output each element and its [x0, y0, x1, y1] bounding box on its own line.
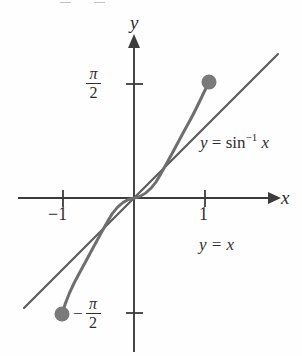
reference-line-y-equals-x [24, 54, 278, 308]
neg-pi-over-two-numerator: π [87, 296, 99, 313]
curve-equation-label: y = sin−1 x [200, 134, 269, 151]
x-tick-label-pos-one: 1 [199, 205, 208, 223]
neg-pi-over-two-sign: − [73, 304, 83, 324]
neg-pi-over-two-denominator: 2 [87, 314, 99, 331]
pi-over-two-denominator: 2 [88, 84, 100, 101]
curve-equation-exponent: −1 [245, 131, 257, 143]
curve-equation-equals: = [212, 133, 222, 152]
neg-pi-over-two-fraction: π 2 [86, 296, 101, 332]
curve-equation-argument: x [261, 133, 269, 152]
endpoint-dot-upper-right [202, 75, 217, 90]
pi-over-two-fraction: π 2 [86, 66, 101, 102]
plot-canvas [0, 0, 302, 356]
curve-equation-lead: y [200, 133, 208, 152]
pi-over-two-numerator: π [87, 66, 99, 83]
y-axis-arrowhead [128, 34, 140, 48]
reference-line-label: y = x [199, 236, 234, 253]
curve-equation-function: sin [226, 133, 246, 152]
y-tick-label-neg-pi-over-two: − π 2 [73, 296, 101, 332]
arcsine-graph-figure: y x −1 1 π 2 − π 2 y = sin−1 x y = x [0, 0, 302, 356]
endpoint-dot-lower-left [55, 307, 70, 322]
x-axis-label: x [281, 188, 289, 207]
y-axis-label: y [130, 13, 138, 32]
x-axis-arrowhead [268, 192, 281, 204]
x-tick-label-neg-one: −1 [48, 205, 67, 223]
y-tick-label-pi-over-two: π 2 [83, 66, 101, 102]
